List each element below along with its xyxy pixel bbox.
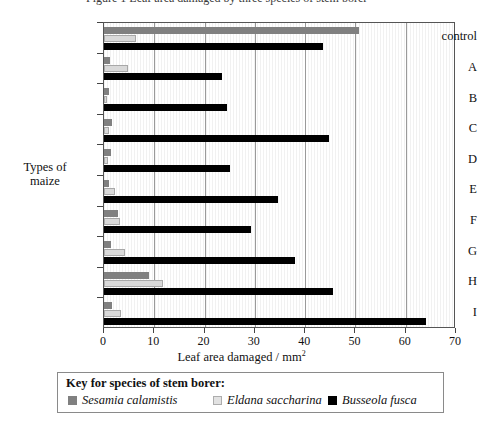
bar-control-sesamia: [104, 27, 359, 34]
y-category-label-F: F: [391, 213, 483, 228]
bar-A-eldana: [104, 65, 128, 72]
y-category-label-G: G: [391, 244, 483, 259]
bar-chart: Types of maize 010203040506070 controlAB…: [0, 0, 483, 355]
bar-C-eldana: [104, 127, 109, 134]
x-tick-20: [204, 328, 205, 333]
bar-I-eldana: [104, 310, 121, 317]
bar-F-eldana: [104, 218, 120, 225]
legend-item-busseola: Busseola fusca: [328, 393, 417, 408]
bar-B-eldana: [104, 96, 107, 103]
x-tick-label-20: 20: [184, 334, 224, 349]
bar-G-busseola: [104, 257, 295, 264]
bar-control-eldana: [104, 35, 136, 42]
legend-label-eldana: Eldana saccharina: [227, 393, 322, 407]
y-category-label-I: I: [391, 305, 483, 320]
x-tick-label-60: 60: [385, 334, 425, 349]
legend-item-eldana: Eldana saccharina: [213, 393, 322, 408]
bar-F-sesamia: [104, 210, 118, 217]
bar-G-eldana: [104, 249, 125, 256]
x-tick-label-30: 30: [234, 334, 274, 349]
y-category-label-control: control: [391, 29, 483, 44]
bar-A-sesamia: [104, 57, 110, 64]
y-axis-title-line2: maize: [6, 174, 84, 188]
x-tick-label-50: 50: [334, 334, 374, 349]
bar-B-busseola: [104, 104, 227, 111]
y-tick-E: [97, 175, 103, 176]
y-tick-A: [97, 53, 103, 54]
x-tick-10: [153, 328, 154, 333]
x-axis-title-superscript: 2: [302, 349, 306, 358]
y-tick-F: [97, 206, 103, 207]
y-axis-title-line1: Types of: [6, 160, 84, 174]
bar-D-busseola: [104, 165, 230, 172]
y-axis-title: Types of maize: [6, 160, 84, 188]
bar-C-sesamia: [104, 119, 112, 126]
x-tick-40: [304, 328, 305, 333]
bar-A-busseola: [104, 73, 222, 80]
x-axis-title: Leaf area damaged / mm2: [0, 349, 483, 365]
y-tick-control: [97, 22, 103, 23]
bar-G-sesamia: [104, 241, 111, 248]
x-tick-30: [254, 328, 255, 333]
bar-D-eldana: [104, 157, 108, 164]
y-tick-C: [97, 114, 103, 115]
y-tick-H: [97, 267, 103, 268]
bar-control-busseola: [104, 43, 323, 50]
y-category-label-D: D: [391, 152, 483, 167]
bar-H-busseola: [104, 288, 333, 295]
y-tick-I: [97, 297, 103, 298]
bar-E-sesamia: [104, 180, 109, 187]
x-tick-label-10: 10: [133, 334, 173, 349]
bar-E-busseola: [104, 196, 278, 203]
y-tick-B: [97, 83, 103, 84]
x-tick-60: [405, 328, 406, 333]
legend-swatch-busseola: [328, 396, 337, 405]
x-tick-label-40: 40: [284, 334, 324, 349]
y-category-label-C: C: [391, 121, 483, 136]
y-category-label-B: B: [391, 91, 483, 106]
x-tick-50: [354, 328, 355, 333]
legend-label-sesamia: Sesamia calamistis: [82, 393, 177, 407]
x-tick-0: [103, 328, 104, 333]
x-tick-70: [455, 328, 456, 333]
y-category-label-E: E: [391, 182, 483, 197]
bar-D-sesamia: [104, 149, 111, 156]
y-tick-G: [97, 236, 103, 237]
legend-box: Key for species of stem borer: Sesamia c…: [57, 372, 444, 413]
x-tick-label-70: 70: [435, 334, 475, 349]
legend-label-busseola: Busseola fusca: [342, 393, 417, 407]
legend-swatch-eldana: [213, 396, 222, 405]
bar-F-busseola: [104, 226, 251, 233]
y-tick-D: [97, 144, 103, 145]
bar-E-eldana: [104, 188, 115, 195]
bar-I-busseola: [104, 318, 426, 325]
legend-item-sesamia: Sesamia calamistis: [68, 393, 177, 408]
x-tick-label-0: 0: [83, 334, 123, 349]
y-category-label-A: A: [391, 60, 483, 75]
x-axis-title-text: Leaf area damaged / mm: [177, 350, 301, 364]
bar-C-busseola: [104, 135, 329, 142]
y-category-label-H: H: [391, 274, 483, 289]
bar-I-sesamia: [104, 302, 112, 309]
bar-H-eldana: [104, 280, 163, 287]
legend-swatch-sesamia: [68, 396, 77, 405]
bar-H-sesamia: [104, 272, 149, 279]
legend-title: Key for species of stem borer:: [66, 376, 225, 391]
bar-B-sesamia: [104, 88, 109, 95]
